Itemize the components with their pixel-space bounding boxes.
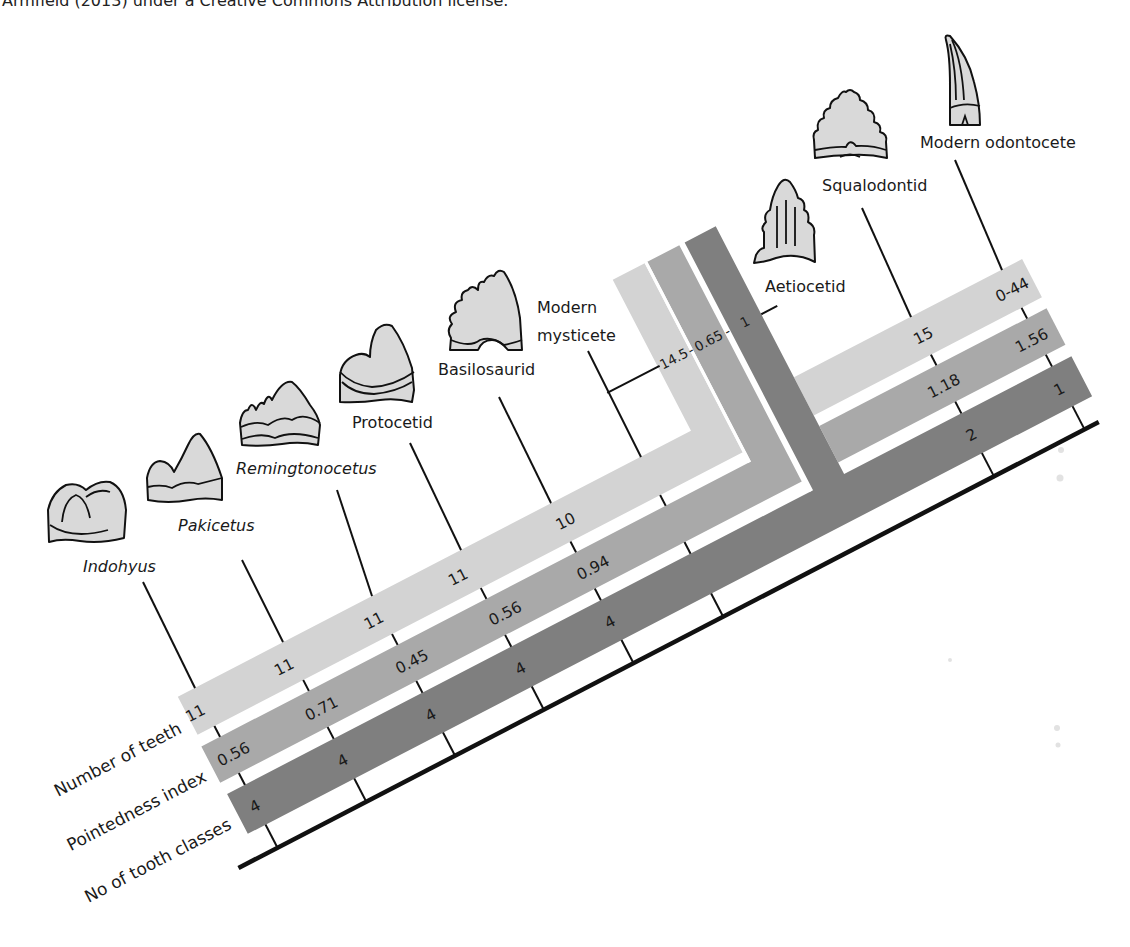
- tooth-icon-protocetid: [340, 325, 414, 403]
- tooth-icon-indohyus: [48, 482, 126, 542]
- taxon-label-odontocete: Modern odontocete: [920, 133, 1076, 152]
- taxon-label-indohyus: Indohyus: [83, 557, 156, 576]
- leader-indohyus: [143, 582, 195, 688]
- leader-squalodontid: [862, 208, 911, 317]
- cladogram-diagram: 11 11 11 11 10 15 0-44 0.56 0.71 0.45 0.…: [0, 0, 1130, 947]
- taxon-label-squalodontid: Squalodontid: [822, 176, 927, 195]
- figure: Armfield (2013) under a Creative Commons…: [0, 0, 1130, 947]
- figure-caption: Armfield (2013) under a Creative Commons…: [2, 0, 508, 10]
- taxon-label-basilosaurid: Basilosaurid: [438, 360, 535, 379]
- leader-odontocete: [955, 160, 1002, 270]
- tooth-icon-pakicetus: [147, 434, 222, 502]
- band-system: 11 11 11 11 10 15 0-44 0.56 0.71 0.45 0.…: [0, 108, 1105, 937]
- taxon-label-mysticete-line2: mysticete: [537, 326, 616, 345]
- leader-protocetid: [410, 443, 461, 550]
- leader-pakicetus: [242, 560, 283, 642]
- taxon-label-protocetid: Protocetid: [352, 413, 433, 432]
- tooth-icon-squalodontid: [814, 90, 888, 158]
- taxon-label-mysticete-line1: Modern: [537, 298, 597, 317]
- aetiocetid-stub-line: [761, 306, 777, 314]
- mysticete-branch-line: [607, 366, 659, 393]
- tooth-icon-remingtonocetus: [240, 382, 320, 446]
- leader-basilosaurid: [499, 397, 551, 503]
- leader-remingtonocetus: [337, 490, 372, 596]
- taxon-label-aetiocetid: Aetiocetid: [765, 277, 846, 296]
- tooth-icon-aetiocetid: [754, 180, 815, 263]
- tooth-icon-basilosaurid: [449, 271, 522, 350]
- leader-mysticete: [588, 351, 641, 457]
- tooth-icon-odontocete: [946, 36, 981, 126]
- taxon-label-remingtonocetus: Remingtonocetus: [236, 459, 377, 478]
- taxon-label-pakicetus: Pakicetus: [178, 516, 255, 535]
